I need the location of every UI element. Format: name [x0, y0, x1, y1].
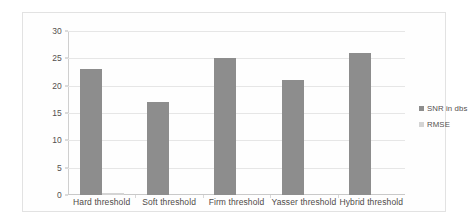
bar-group — [203, 31, 270, 195]
x-axis-labels: Hard thresholdSoft thresholdFirm thresho… — [68, 198, 405, 216]
legend-item[interactable]: SNR in dbs — [419, 105, 470, 113]
legend-label: SNR in dbs — [427, 105, 467, 113]
chart-legend: SNR in dbsRMSE — [419, 105, 470, 137]
bar-snr — [349, 53, 371, 195]
y-axis-tick-label: 25 — [52, 54, 62, 63]
y-axis-tick-label: 5 — [57, 163, 62, 172]
chart-figure: 051015202530 Hard thresholdSoft threshol… — [22, 12, 446, 212]
bar-rmse — [102, 193, 124, 195]
bar-group — [338, 31, 405, 195]
y-axis-tick-label: 10 — [52, 136, 62, 145]
x-axis-label: Hybrid threshold — [332, 198, 411, 207]
plot-area: 051015202530 — [68, 31, 405, 195]
y-axis-tick-label: 20 — [52, 81, 62, 90]
bar-group — [68, 31, 135, 195]
bar-snr — [282, 80, 304, 195]
bar-group — [270, 31, 337, 195]
legend-label: RMSE — [427, 121, 450, 129]
bar-snr — [147, 102, 169, 195]
legend-swatch-icon — [419, 106, 424, 111]
legend-item[interactable]: RMSE — [419, 121, 470, 129]
y-axis-tick-label: 15 — [52, 109, 62, 118]
y-axis-tick-label: 30 — [52, 27, 62, 36]
bar-snr — [80, 69, 102, 195]
bar-group — [135, 31, 202, 195]
bar-snr — [214, 58, 236, 195]
legend-swatch-icon — [419, 122, 424, 127]
